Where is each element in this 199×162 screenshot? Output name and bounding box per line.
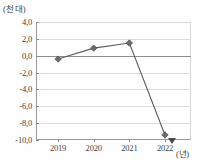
y-tick-label: -4,0 [0, 85, 32, 94]
x-tick-label: 2021 [109, 144, 149, 153]
gridline [36, 39, 191, 40]
x-tick-label: 2019 [38, 144, 78, 153]
x-tick-mark [58, 139, 59, 142]
y-tick-label: 2,0 [0, 35, 32, 44]
gridline [36, 123, 191, 124]
y-tick-mark [36, 56, 39, 57]
y-tick-label: -6,0 [0, 102, 32, 111]
y-tick-mark [36, 123, 39, 124]
y-tick-label: -2,0 [0, 69, 32, 78]
x-tick-mark [129, 139, 130, 142]
x-axis-unit-label: (년) [176, 147, 189, 159]
x-tick-mark [94, 139, 95, 142]
y-tick-mark [36, 39, 39, 40]
y-tick-label: 4,0 [0, 18, 32, 27]
gridline [36, 106, 191, 107]
zero-line [36, 56, 191, 57]
y-tick-label: -10,0 [0, 136, 32, 145]
y-tick-mark [36, 73, 39, 74]
y-tick-mark [36, 106, 39, 107]
gridline [36, 89, 191, 90]
x-axis-arrow-icon [168, 138, 176, 144]
y-tick-label: -8,0 [0, 119, 32, 128]
y-tick-mark [36, 22, 39, 23]
line-chart: (천 대) 4,02,00,0-2,0-4,0-6,0-8,0-10,0 201… [0, 0, 199, 162]
x-tick-mark [165, 139, 166, 142]
gridline [36, 73, 191, 74]
x-tick-label: 2020 [74, 144, 114, 153]
y-tick-mark [36, 89, 39, 90]
y-axis-unit-label: (천 대) [3, 2, 25, 14]
y-tick-label: 0,0 [0, 52, 32, 61]
y-tick-mark [36, 140, 39, 141]
